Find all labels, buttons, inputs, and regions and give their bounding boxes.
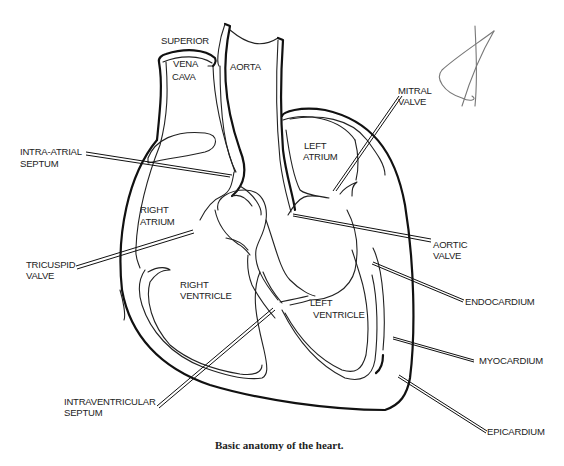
heart-anatomy-diagram: SUPERIOR VENA CAVA AORTA MITRAL VALVE IN… [0,0,564,466]
label-aorta: AORTA [230,61,262,72]
label-left-atrium-2: ATRIUM [303,151,338,162]
label-right-atrium-2: ATRIUM [140,216,175,227]
label-superior: SUPERIOR [161,35,209,46]
label-aortic-valve: VALVE [433,250,461,261]
left-ventricle [280,210,377,379]
leader-lines [76,96,487,433]
label-tricuspid-valve: VALVE [26,270,54,281]
right-ventricle [139,268,282,379]
labels: SUPERIOR VENA CAVA AORTA MITRAL VALVE IN… [20,35,545,437]
label-aortic: AORTIC [433,239,468,250]
label-intra-atrial: INTRA-ATRIAL [20,146,82,157]
label-intraventricular-septum: SEPTUM [64,407,103,418]
label-vena: VENA [173,58,199,69]
label-myocardium: MYOCARDIUM [479,355,543,366]
label-tricuspid: TRICUSPID [26,259,76,270]
aorta [218,24,295,212]
label-endocardium: ENDOCARDIUM [465,296,535,307]
label-left-ventricle-2: VENTRICLE [313,309,365,320]
label-intraventricular: INTRAVENTRICULAR [64,396,156,407]
label-mitral-valve: VALVE [398,96,426,107]
figure-caption: Basic anatomy of the heart. [215,439,344,451]
label-intra-atrial-septum: SEPTUM [20,158,59,169]
label-epicardium: EPICARDIUM [487,426,545,437]
label-left-atrium: LEFT [304,140,327,151]
signature-mark [439,26,494,106]
label-right-ventricle-2: VENTRICLE [180,290,232,301]
label-cava: CAVA [172,71,197,82]
label-left-ventricle: LEFT [310,297,333,308]
label-right-atrium: RIGHT [140,204,169,215]
label-right-ventricle: RIGHT [180,279,209,290]
label-mitral: MITRAL [398,85,432,96]
